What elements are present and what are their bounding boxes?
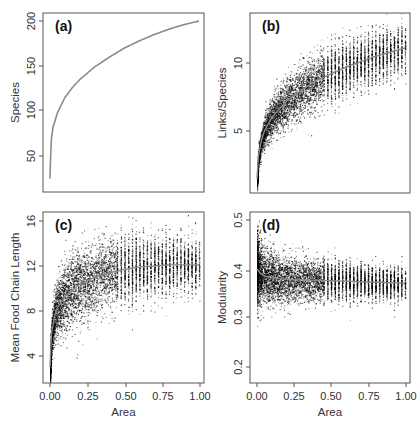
y-tick-label: 0.2 <box>232 359 244 374</box>
y-tick-label: 10 <box>232 57 244 69</box>
y-tick-label: 100 <box>25 101 37 119</box>
species-area-curve <box>50 21 199 179</box>
x-tick-label: 0.75 <box>358 390 379 402</box>
y-axis-label: Species <box>9 82 21 123</box>
y-axis-label: Links/Species <box>216 67 228 138</box>
x-tick-label: 0.25 <box>283 390 304 402</box>
y-axis-label: Mean Food Chain Length <box>9 233 21 363</box>
scatter-points-b <box>257 14 406 192</box>
x-tick-label: 0.00 <box>39 390 60 402</box>
y-tick-label: 200 <box>25 12 37 30</box>
y-tick-label: 5 <box>232 128 244 134</box>
x-tick-label: 0.75 <box>152 390 173 402</box>
x-tick-label: 1.00 <box>189 390 210 402</box>
plot-frame-d <box>250 212 410 383</box>
x-tick-label: 0.00 <box>246 390 267 402</box>
panel-a: 50100150200Species(a) <box>9 12 204 192</box>
y-tick-label: 16 <box>25 215 37 227</box>
panel-label-c: (c) <box>55 217 72 233</box>
chart-canvas: 50100150200Species(a)510Links/Species(b)… <box>0 0 420 422</box>
x-axis-label: Area <box>111 406 136 418</box>
x-tick-label: 0.50 <box>320 390 341 402</box>
panel-label-b: (b) <box>262 18 280 34</box>
y-tick-label: 50 <box>25 150 37 162</box>
plot-area-a <box>50 21 199 179</box>
y-tick-label: 0.5 <box>232 212 244 227</box>
plot-area-b <box>257 14 406 192</box>
y-tick-label: 0.4 <box>232 263 244 278</box>
y-tick-label: 8 <box>25 308 37 314</box>
x-tick-label: 0.50 <box>115 390 136 402</box>
figure-panel-grid: 50100150200Species(a)510Links/Species(b)… <box>0 0 420 422</box>
y-tick-label: 12 <box>25 260 37 272</box>
panel-label-d: (d) <box>262 217 280 233</box>
scatter-points-c <box>50 206 200 397</box>
panel-label-a: (a) <box>55 18 72 34</box>
y-tick-label: 4 <box>25 353 37 359</box>
x-axis-label: Area <box>318 406 343 418</box>
scatter-points-d <box>257 221 406 328</box>
panel-b: 510Links/Species(b) <box>216 13 410 193</box>
x-tick-label: 0.25 <box>77 390 98 402</box>
panel-c: 481216Mean Food Chain Length0.000.250.50… <box>9 206 211 418</box>
plot-frame-a <box>43 13 204 192</box>
y-axis-label: Modularity <box>216 271 228 324</box>
plot-area-c <box>50 206 200 397</box>
plot-area-d <box>257 221 406 328</box>
y-tick-label: 0.3 <box>232 309 244 324</box>
panel-d: 0.20.30.40.5Modularity0.000.250.500.751.… <box>216 212 417 418</box>
y-tick-label: 150 <box>25 57 37 75</box>
x-tick-label: 1.00 <box>395 390 416 402</box>
